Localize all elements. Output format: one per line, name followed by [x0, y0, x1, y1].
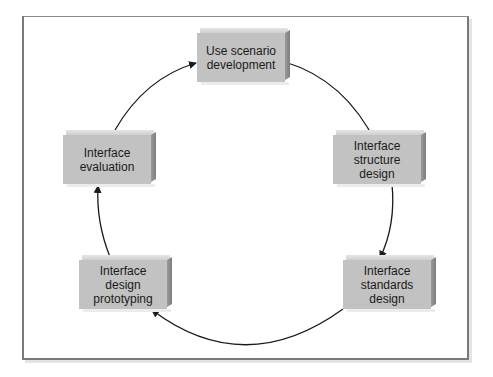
node-side-face — [151, 132, 156, 182]
node-shadow — [83, 309, 171, 312]
node-interface-structure-design: Interface structure design — [333, 130, 421, 184]
node-interface-evaluation: Interface evaluation — [63, 130, 151, 184]
arrow-evaluation-to-scenario — [115, 63, 196, 130]
node-side-face — [421, 132, 426, 182]
node-label: Interface evaluation — [63, 135, 151, 184]
node-side-face — [285, 30, 290, 80]
node-label: Interface standards design — [343, 260, 431, 309]
node-shadow — [347, 309, 435, 312]
node-interface-standards-design: Interface standards design — [343, 255, 431, 309]
node-shadow — [201, 82, 289, 85]
node-side-face — [431, 257, 436, 307]
arrow-standards-to-prototyping — [152, 309, 343, 345]
node-interface-design-prototyping: Interface design prototyping — [79, 255, 167, 309]
node-label: Interface structure design — [333, 135, 421, 184]
node-label: Use scenario development — [197, 33, 285, 82]
node-side-face — [167, 257, 172, 307]
node-shadow — [337, 184, 425, 187]
arrow-prototyping-to-evaluation — [98, 186, 110, 257]
node-use-scenario-development: Use scenario development — [197, 28, 285, 82]
node-label: Interface design prototyping — [79, 260, 167, 309]
arrow-structure-to-standards — [380, 184, 393, 258]
node-shadow — [67, 184, 155, 187]
